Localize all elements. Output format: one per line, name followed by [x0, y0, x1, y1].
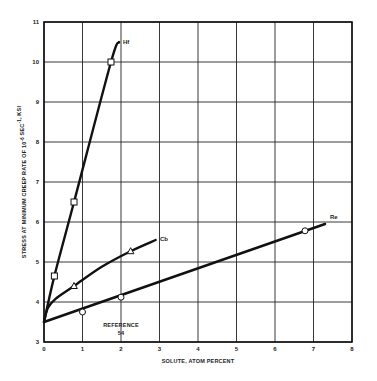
x-tick-label: 6: [273, 346, 277, 352]
circle-marker: [118, 294, 124, 300]
x-tick-label: 4: [196, 346, 200, 352]
square-marker: [51, 273, 57, 279]
x-tick-label: 7: [312, 346, 316, 352]
x-tick-label: 3: [158, 346, 162, 352]
y-axis-label: STRESS AT MINIMUM CREEP RATE OF 10-6 SEC…: [16, 106, 27, 259]
grid-lines: [44, 22, 352, 342]
series-label: Re: [330, 214, 338, 220]
y-tick-label: 11: [33, 19, 40, 25]
x-tick-label: 8: [350, 346, 354, 352]
series-label: Cb: [160, 236, 168, 242]
series-hf: Hf: [44, 39, 130, 322]
y-tick-label: 3: [36, 339, 40, 345]
x-axis-label: SOLUTE, ATOM PERCENT: [162, 358, 235, 364]
y-tick-label: 4: [36, 299, 40, 305]
series-line: [44, 224, 325, 322]
y-tick-label: 7: [36, 179, 40, 185]
square-marker: [71, 199, 77, 205]
x-tick-label: 1: [81, 346, 85, 352]
y-tick-label: 8: [36, 139, 40, 145]
y-tick-label: 6: [36, 219, 40, 225]
x-tick-label: 2: [119, 346, 123, 352]
y-axis-ticks: 34567891011: [32, 19, 39, 345]
x-tick-label: 5: [235, 346, 239, 352]
x-axis-ticks: 012345678: [42, 346, 354, 352]
creep-stress-chart: 012345678 34567891011 SOLUTE, ATOM PERCE…: [0, 0, 377, 381]
reference-label: REFERENCE: [103, 322, 139, 328]
reference-number: 54: [118, 330, 125, 336]
circle-marker: [80, 309, 86, 315]
series-label: Hf: [123, 39, 130, 45]
y-tick-label: 10: [32, 59, 39, 65]
x-tick-label: 0: [42, 346, 46, 352]
series-re: Re: [44, 214, 338, 322]
square-marker: [108, 59, 114, 65]
circle-marker: [302, 228, 308, 234]
y-tick-label: 5: [36, 259, 40, 265]
y-tick-label: 9: [36, 99, 40, 105]
data-series: HfCbRe: [44, 39, 338, 322]
